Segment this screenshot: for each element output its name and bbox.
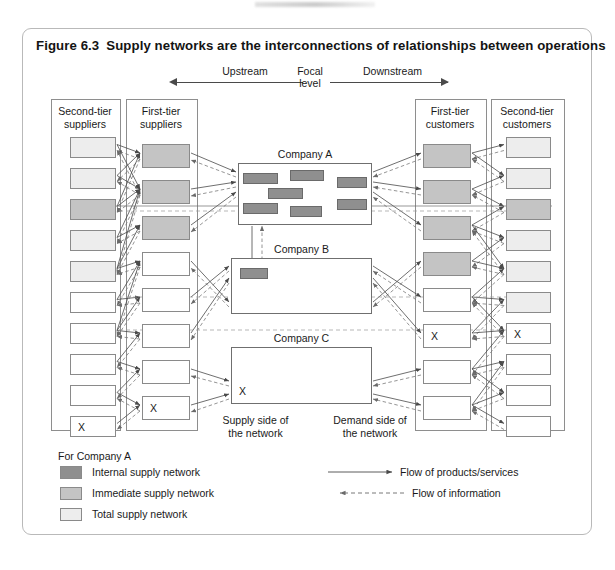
node-first-tier-suppliers-6 (142, 324, 190, 348)
column-title-line1: First-tier (124, 105, 198, 118)
node-second-tier-customers-9 (506, 385, 551, 406)
column-title-line2: suppliers (124, 118, 198, 131)
column-title-line1: First-tier (413, 105, 487, 118)
node-first-tier-customers-5 (423, 288, 471, 312)
node-second-tier-customers-1 (506, 137, 551, 158)
legend-heading: For Company A (58, 450, 131, 462)
node-second-tier-customers-2 (506, 168, 551, 189)
company-a-internal-node-2 (290, 170, 324, 181)
company-c-x-marker: X (239, 385, 246, 397)
node-second-tier-customers-10 (506, 416, 551, 437)
company-a-internal-node-5 (243, 203, 278, 214)
column-title-line1: Second-tier (48, 105, 122, 118)
column-title-first-tier-customers: First-tier customers (413, 105, 487, 130)
node-second-tier-suppliers-5 (70, 261, 116, 282)
downstream-arrow-icon (441, 78, 449, 86)
legend-swatch-internal (60, 466, 82, 479)
node-first-tier-customers-1 (423, 144, 471, 168)
legend-label-immediate: Immediate supply network (92, 487, 214, 499)
legend-swatch-immediate (60, 487, 82, 500)
node-second-tier-suppliers-4 (70, 230, 116, 251)
company-b-box (231, 258, 372, 314)
figure-title-text: Supply networks are the interconnections… (106, 38, 605, 53)
legend-label-internal: Internal supply network (92, 466, 200, 478)
node-second-tier-suppliers-9 (70, 385, 116, 406)
axis-label-upstream: Upstream (190, 65, 300, 77)
supply-side-line2: the network (203, 427, 308, 440)
figure-root: Figure 6.3Supply networks are the interc… (0, 0, 615, 570)
axis-label-focal-line2: level (288, 77, 332, 89)
company-a-internal-node-7 (337, 199, 367, 210)
figure-number: Figure 6.3 (36, 38, 99, 53)
demand-side-line1: Demand side of (315, 414, 425, 427)
column-title-line1: Second-tier (489, 105, 565, 118)
node-first-tier-suppliers-3 (142, 216, 190, 240)
scan-artifact (255, 2, 375, 7)
demand-side-label: Demand side of the network (315, 414, 425, 439)
company-b-internal-node-1 (240, 268, 268, 279)
column-title-second-tier-suppliers: Second-tier suppliers (48, 105, 122, 130)
node-first-tier-suppliers-4 (142, 252, 190, 276)
column-title-line2: customers (413, 118, 487, 131)
company-c-label: Company C (231, 332, 372, 344)
column-title-first-tier-suppliers: First-tier suppliers (124, 105, 198, 130)
company-a-internal-node-1 (243, 173, 278, 184)
node-second-tier-suppliers-1 (70, 137, 116, 158)
company-c-box (231, 347, 372, 404)
company-a-internal-node-3 (337, 177, 367, 188)
node-first-tier-suppliers-1 (142, 144, 190, 168)
node-second-tier-customers-5 (506, 261, 551, 282)
company-b-label: Company B (231, 243, 372, 255)
figure-title: Figure 6.3Supply networks are the interc… (36, 38, 606, 53)
node-second-tier-suppliers-10 (70, 416, 116, 437)
node-second-tier-suppliers-7 (70, 323, 116, 344)
legend-label-flow-products: Flow of products/services (400, 466, 518, 478)
node-first-tier-suppliers-7 (142, 360, 190, 384)
node-first-tier-suppliers-8 (142, 396, 190, 420)
column-title-line2: suppliers (48, 118, 122, 131)
legend-swatch-total (60, 508, 82, 521)
axis-label-focal: Focal level (288, 65, 332, 89)
node-first-tier-suppliers-5 (142, 288, 190, 312)
supply-side-line1: Supply side of (203, 414, 308, 427)
upstream-axis-line (175, 82, 303, 83)
node-first-tier-customers-2 (423, 180, 471, 204)
legend-label-flow-information: Flow of information (412, 487, 501, 499)
node-first-tier-customers-4 (423, 252, 471, 276)
company-a-internal-node-6 (290, 206, 322, 217)
node-first-tier-customers-3 (423, 216, 471, 240)
company-a-label: Company A (238, 148, 372, 160)
node-first-tier-suppliers-2 (142, 180, 190, 204)
column-title-line2: customers (489, 118, 565, 131)
node-second-tier-customers-6 (506, 292, 551, 313)
node-first-tier-customers-7 (423, 360, 471, 384)
downstream-axis-line (330, 82, 448, 83)
node-second-tier-suppliers-8 (70, 354, 116, 375)
node-second-tier-customers-7 (506, 323, 551, 344)
node-second-tier-customers-8 (506, 354, 551, 375)
column-title-second-tier-customers: Second-tier customers (489, 105, 565, 130)
node-second-tier-customers-3 (506, 199, 551, 220)
node-second-tier-suppliers-3 (70, 199, 116, 220)
node-first-tier-customers-8 (423, 396, 471, 420)
node-second-tier-customers-4 (506, 230, 551, 251)
upstream-arrow-icon (169, 78, 177, 86)
node-second-tier-suppliers-6 (70, 292, 116, 313)
legend-label-total: Total supply network (92, 508, 187, 520)
demand-side-line2: the network (315, 427, 425, 440)
axis-label-focal-line1: Focal (288, 65, 332, 77)
supply-side-label: Supply side of the network (203, 414, 308, 439)
node-first-tier-customers-6 (423, 324, 471, 348)
node-second-tier-suppliers-2 (70, 168, 116, 189)
company-a-internal-node-4 (268, 188, 303, 199)
axis-label-downstream: Downstream (335, 65, 450, 77)
